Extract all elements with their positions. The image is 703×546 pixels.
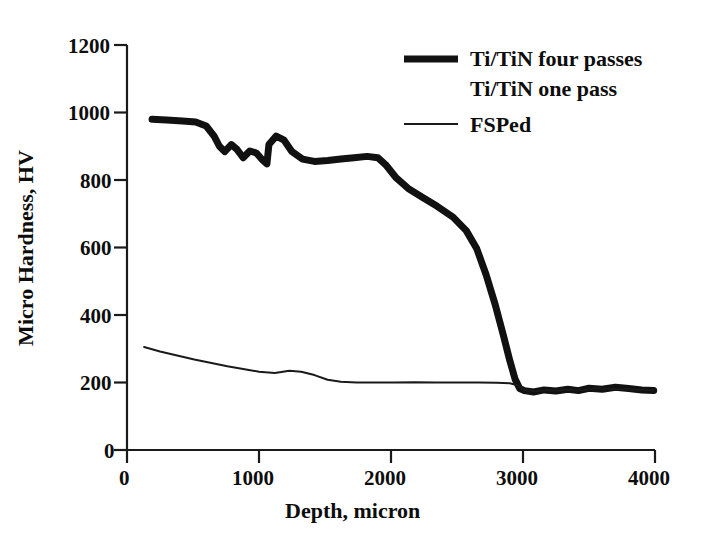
x-axis-ticks: [127, 450, 655, 463]
y-tick-label-800: 800: [80, 169, 112, 194]
y-tick-label-200: 200: [80, 371, 112, 396]
series-line-ti-tin-four-passes: [152, 119, 654, 392]
legend-markers: [404, 59, 458, 124]
legend-label-ti-tin-one-pass: Ti/TiN one pass: [470, 76, 617, 102]
y-tick-label-600: 600: [80, 236, 112, 261]
x-tick-label-4000: 4000: [628, 466, 670, 491]
y-tick-label-400: 400: [80, 304, 112, 329]
x-tick-label-0: 0: [119, 466, 130, 491]
chart-figure: Micro Hardness, HV 1200 1000 800 600 400…: [0, 0, 703, 546]
legend-label-ti-tin-four-passes: Ti/TiN four passes: [470, 46, 642, 72]
y-axis-ticks: [114, 45, 127, 450]
y-tick-label-1000: 1000: [68, 101, 110, 126]
series-line-fsped: [144, 347, 654, 391]
data-series-layer: [144, 119, 654, 392]
legend-label-fsped: FSPed: [470, 112, 531, 138]
x-axis-title: Depth, micron: [285, 498, 420, 524]
x-tick-label-3000: 3000: [496, 466, 538, 491]
y-axis-title: Micro Hardness, HV: [13, 150, 38, 346]
y-tick-label-0: 0: [104, 439, 115, 464]
y-tick-label-1200: 1200: [68, 34, 110, 59]
x-tick-label-2000: 2000: [364, 466, 406, 491]
x-tick-label-1000: 1000: [232, 466, 274, 491]
